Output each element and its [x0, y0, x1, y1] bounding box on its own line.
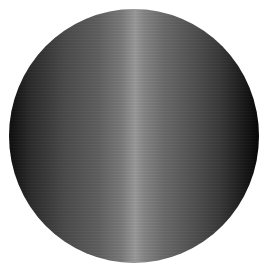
canvas — [0, 0, 267, 276]
clipped-caption — [0, 0, 267, 3]
shaded-circle — [9, 9, 259, 263]
